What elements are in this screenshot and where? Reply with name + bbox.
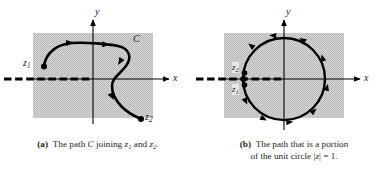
panel-a-point-label-z2: z2 xyxy=(145,111,153,124)
panel-a-x-axis-label: x xyxy=(173,72,177,83)
z2-subscript: 2 xyxy=(236,66,239,73)
panel-b-plot xyxy=(196,0,392,140)
panel-a-caption: (a) The path C joining z1 and z2. xyxy=(0,139,196,152)
panel-a: y x C z1 z2 (a) The path C joining z1 an… xyxy=(0,0,196,180)
z1-subscript: 1 xyxy=(27,62,31,70)
panel-b: y x z2 z1 (b) The path that is a portion… xyxy=(196,0,392,180)
panel-b-caption: (b) The path that is a portion of the un… xyxy=(196,139,392,162)
point-z2-dot xyxy=(242,70,248,76)
panel-b-caption-label: (b) xyxy=(240,139,251,149)
panel-a-curve-label-c: C xyxy=(133,33,140,44)
point-z1-dot xyxy=(242,82,248,88)
point-z1-dot xyxy=(41,64,47,70)
panel-b-point-label-z2: z2 xyxy=(232,62,239,73)
panel-b-y-axis-label: y xyxy=(286,6,290,17)
panel-a-plot xyxy=(0,0,196,140)
origin-side-dot xyxy=(241,76,247,82)
point-z2-dot xyxy=(138,116,144,122)
panel-b-x-axis-label: x xyxy=(364,72,368,83)
panel-a-y-axis-label: y xyxy=(95,6,99,17)
z2-subscript: 2 xyxy=(149,116,153,124)
panel-b-point-label-z1: z1 xyxy=(232,84,239,95)
figure-container: y x C z1 z2 (a) The path C joining z1 an… xyxy=(0,0,392,180)
z1-subscript: 1 xyxy=(236,88,239,95)
panel-a-caption-label: (a) xyxy=(37,139,48,149)
panel-a-point-label-z1: z1 xyxy=(23,57,31,70)
